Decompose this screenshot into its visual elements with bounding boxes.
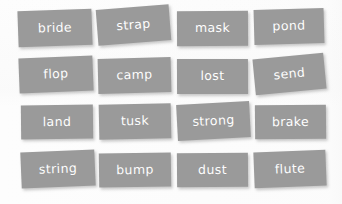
word-card-label: send <box>273 66 306 81</box>
word-card-flute[interactable]: flute <box>253 150 326 189</box>
word-card-board: bridestrapmaskpondflopcamplostsendlandtu… <box>0 0 342 204</box>
word-card-label: land <box>43 116 72 129</box>
word-card-label: pond <box>272 20 305 33</box>
word-card-pond[interactable]: pond <box>254 8 325 45</box>
word-card-lost[interactable]: lost <box>177 59 248 94</box>
word-card-label: strap <box>116 17 151 32</box>
word-card-dust[interactable]: dust <box>177 153 248 187</box>
word-card-label: tusk <box>121 115 149 128</box>
word-card-send[interactable]: send <box>252 53 326 96</box>
word-card-label: flop <box>43 68 69 81</box>
word-card-label: string <box>39 162 78 176</box>
word-card-strong[interactable]: strong <box>176 101 251 141</box>
word-card-label: flute <box>275 162 306 176</box>
word-card-bride[interactable]: bride <box>17 9 92 48</box>
word-card-label: camp <box>116 69 153 82</box>
word-card-mask[interactable]: mask <box>177 11 248 46</box>
word-card-brake[interactable]: brake <box>255 105 326 140</box>
word-card-label: bump <box>116 163 154 176</box>
word-card-camp[interactable]: camp <box>98 57 172 94</box>
word-card-tusk[interactable]: tusk <box>99 103 172 140</box>
word-card-label: dust <box>198 164 227 177</box>
word-card-label: brake <box>272 116 309 129</box>
word-card-land[interactable]: land <box>21 105 93 140</box>
word-card-string[interactable]: string <box>20 149 95 188</box>
word-card-label: mask <box>195 22 230 35</box>
word-card-label: bride <box>38 21 73 35</box>
word-card-label: lost <box>200 70 224 83</box>
word-card-label: strong <box>192 114 235 129</box>
word-card-flop[interactable]: flop <box>18 56 93 94</box>
word-card-bump[interactable]: bump <box>99 152 171 187</box>
word-card-strap[interactable]: strap <box>96 4 172 46</box>
